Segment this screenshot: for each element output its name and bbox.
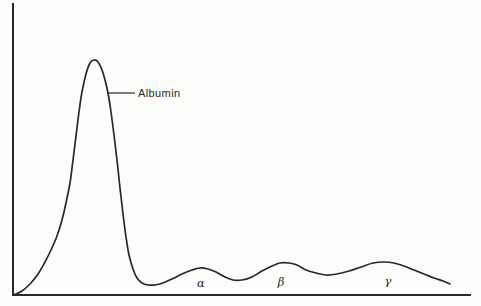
trace-plot (0, 0, 481, 306)
densitometer-trace-curve (14, 60, 450, 295)
alpha-label: α (197, 276, 205, 290)
electrophoresis-trace-figure: Albumin α β γ (0, 0, 481, 306)
gamma-label: γ (385, 274, 392, 288)
albumin-label: Albumin (138, 87, 181, 99)
beta-label: β (278, 275, 285, 289)
